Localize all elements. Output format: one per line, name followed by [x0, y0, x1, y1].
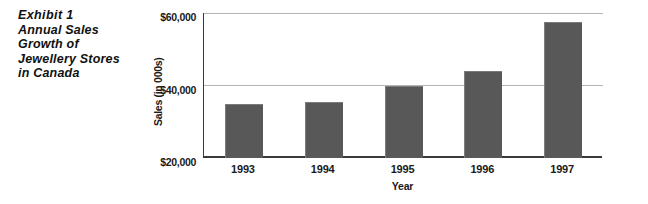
- plot-area: [203, 13, 602, 158]
- bars-layer: [204, 13, 603, 158]
- y-axis-tick-20000: $20,000: [148, 152, 196, 170]
- y-axis-tick-label: $60,000: [160, 11, 196, 23]
- x-axis-tick-1997: 1997: [532, 163, 592, 175]
- y-axis-tick-label: $20,000: [160, 156, 196, 168]
- y-axis-title-label: Sales (in 000s): [152, 58, 164, 126]
- bar-1995: [385, 86, 423, 159]
- x-axis-title-label: Year: [392, 180, 413, 192]
- x-axis-tick-1993: 1993: [213, 163, 273, 175]
- x-axis-tick-1994: 1994: [293, 163, 353, 175]
- y-axis-title: Sales (in 000s): [140, 52, 154, 122]
- bar-1993: [225, 104, 263, 158]
- bar-1997: [544, 22, 582, 158]
- x-axis-title: Year: [203, 180, 602, 192]
- y-axis-tick-60000: $60,000: [148, 7, 196, 25]
- bar-chart-figure: $60,000 $40,000 $20,000 Sales (in 000s) …: [0, 0, 648, 204]
- bar-1994: [305, 102, 343, 158]
- bar-1996: [464, 71, 502, 158]
- y-axis-tick-label: $40,000: [160, 84, 196, 96]
- x-axis-tick-1995: 1995: [373, 163, 433, 175]
- x-axis-tick-1996: 1996: [452, 163, 512, 175]
